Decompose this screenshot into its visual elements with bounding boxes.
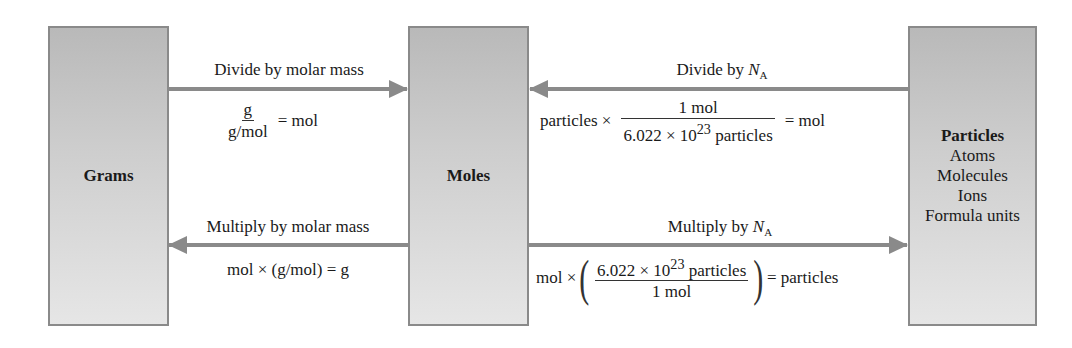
particles-item-molecules: Molecules: [937, 166, 1008, 186]
particles-item-ions: Ions: [958, 186, 987, 206]
moles-to-particles-label: Multiply by NA: [650, 217, 790, 238]
fraction: g g/mol: [226, 100, 270, 141]
moles-to-grams-equation: mol × (g/mol) = g: [206, 260, 370, 280]
equation-lhs: particles ×: [540, 111, 611, 131]
grams-box: Grams: [48, 26, 169, 326]
fraction-numerator: g: [242, 100, 255, 121]
fraction: 1 mol 6.022 × 1023 particles: [621, 98, 774, 145]
moles-to-grams-label: Multiply by molar mass: [186, 217, 390, 237]
equation-result: = mol: [278, 111, 318, 131]
arrow-right-icon: [529, 243, 907, 247]
moles-to-particles-equation: mol × ( 6.022 × 1023 particles 1 mol ) =…: [536, 253, 838, 303]
equation-result: = particles: [767, 268, 838, 288]
avogadro-symbol: N: [748, 60, 759, 79]
label-text: Multiply by: [668, 217, 753, 236]
den-suffix: particles: [711, 126, 773, 145]
grams-title: Grams: [83, 166, 133, 186]
fraction-numerator: 6.022 × 1023 particles: [595, 255, 748, 282]
moles-title: Moles: [447, 166, 490, 186]
equation-result: = mol: [785, 111, 825, 131]
avogadro-subscript: A: [764, 226, 772, 238]
particles-box: Particles Atoms Molecules Ions Formula u…: [908, 26, 1037, 326]
exponent: 23: [670, 256, 684, 272]
num-prefix: 6.022 × 10: [597, 260, 670, 279]
particles-item-formula-units: Formula units: [925, 206, 1020, 226]
arrow-right-icon: [169, 87, 407, 91]
moles-box: Moles: [408, 26, 529, 326]
particles-to-moles-label: Divide by NA: [662, 60, 782, 81]
den-prefix: 6.022 × 10: [623, 126, 696, 145]
fraction-denominator: 6.022 × 1023 particles: [621, 119, 774, 145]
arrow-left-icon: [530, 87, 908, 91]
fraction-denominator: g/mol: [226, 121, 270, 141]
fraction: 6.022 × 1023 particles 1 mol: [595, 255, 748, 302]
grams-to-moles-label: Divide by molar mass: [196, 60, 382, 80]
label-text: Divide by: [676, 60, 748, 79]
avogadro-subscript: A: [760, 69, 768, 81]
particles-title: Particles: [941, 126, 1004, 146]
particles-item-atoms: Atoms: [950, 146, 995, 166]
fraction-denominator: 1 mol: [650, 281, 693, 301]
equation-lhs: mol ×: [536, 268, 576, 288]
exponent: 23: [697, 121, 711, 137]
left-paren: (: [580, 253, 590, 303]
fraction-numerator: 1 mol: [621, 98, 774, 119]
grams-to-moles-equation: g g/mol = mol: [218, 100, 318, 141]
arrow-left-icon: [169, 243, 408, 247]
particles-to-moles-equation: particles × 1 mol 6.022 × 1023 particles…: [540, 98, 825, 145]
right-paren: ): [754, 253, 764, 303]
avogadro-symbol: N: [753, 217, 764, 236]
num-suffix: particles: [684, 260, 746, 279]
